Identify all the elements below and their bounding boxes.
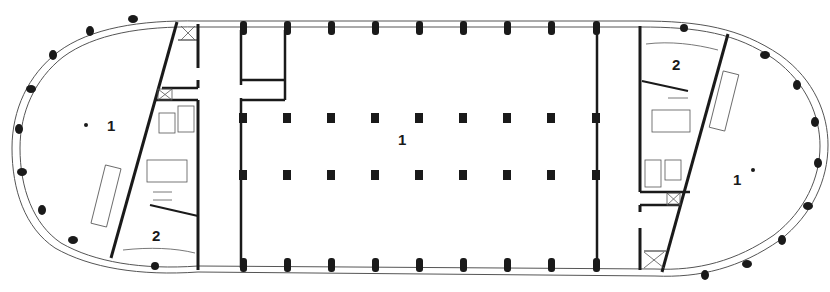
left-core <box>91 22 198 270</box>
interior-columns <box>239 113 600 180</box>
perimeter-columns-right <box>680 24 822 280</box>
perimeter-columns-central <box>240 21 600 272</box>
floor-plan-drawing <box>0 0 830 292</box>
floor-plan: 1 2 1 2 1 <box>0 0 830 292</box>
central-walls <box>241 30 597 268</box>
left-lobe-point <box>84 123 88 127</box>
outer-envelope <box>12 21 828 276</box>
label-central-hall: 1 <box>398 132 406 147</box>
label-left-lobe: 1 <box>107 118 115 133</box>
right-lobe-point <box>751 168 755 172</box>
label-right-lobe: 1 <box>733 172 741 187</box>
label-left-service: 2 <box>152 228 160 243</box>
right-core <box>640 26 739 272</box>
label-right-service: 2 <box>672 57 680 72</box>
